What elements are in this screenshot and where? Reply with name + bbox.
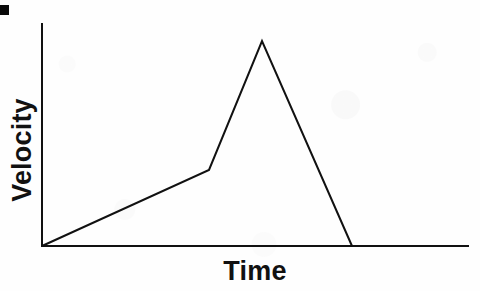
x-axis-label: Time bbox=[197, 256, 313, 286]
figure-canvas: Velocity Time bbox=[0, 0, 480, 291]
velocity-series-line bbox=[42, 41, 352, 246]
velocity-time-plot bbox=[0, 0, 480, 291]
